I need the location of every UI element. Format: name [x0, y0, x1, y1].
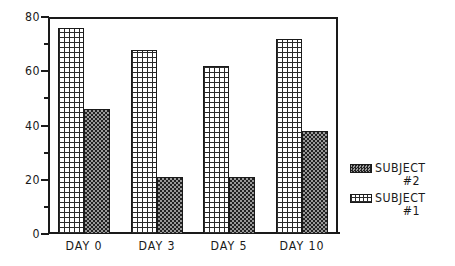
y-axis-tick-label: 60: [14, 65, 40, 77]
x-axis-tick-label: DAY 0: [47, 239, 121, 253]
y-axis-tick-label: 0: [14, 228, 40, 240]
y-axis-tick-label: 40: [14, 120, 40, 132]
legend-swatch: [350, 164, 372, 173]
bar-chart: 020406080 DAY 0DAY 3DAY 5DAY 10 SUBJECT#…: [0, 0, 455, 266]
y-axis-label-slot: 20: [8, 174, 40, 186]
chart-legend: SUBJECT#2SUBJECT#1: [350, 162, 454, 222]
y-axis-tick-label: 80: [14, 11, 40, 23]
y-axis-label-slot: 60: [8, 65, 40, 77]
legend-label: SUBJECT#2: [375, 162, 448, 188]
bar: [229, 177, 255, 234]
bar: [302, 131, 328, 234]
bar: [131, 50, 157, 234]
y-axis-label-slot: 0: [8, 228, 40, 240]
y-axis-label-slot: 40: [8, 120, 40, 132]
bar: [276, 39, 302, 234]
legend-label: SUBJECT#1: [375, 192, 448, 218]
x-axis-tick-label: DAY 3: [120, 239, 194, 253]
y-axis-label-slot: 80: [8, 11, 40, 23]
x-axis-tick-label: DAY 5: [192, 239, 266, 253]
x-axis-tick-label: DAY 10: [265, 239, 339, 253]
bar: [58, 28, 84, 234]
bar: [84, 109, 110, 234]
y-axis-tick-label: 20: [14, 174, 40, 186]
legend-label-line2: #2: [375, 175, 448, 188]
legend-item: SUBJECT#2: [350, 162, 454, 188]
bar: [157, 177, 183, 234]
legend-label-line2: #1: [375, 205, 448, 218]
legend-swatch: [350, 194, 372, 203]
bars-layer: [48, 17, 338, 234]
bar: [203, 66, 229, 234]
legend-item: SUBJECT#1: [350, 192, 454, 218]
